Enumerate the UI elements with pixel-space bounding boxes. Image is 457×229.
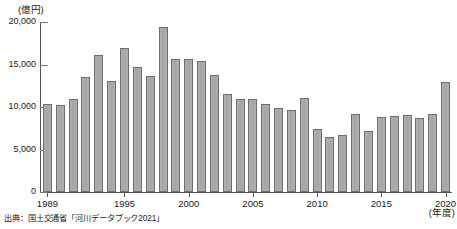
bar (364, 131, 373, 192)
bar (56, 105, 65, 192)
source-note: 出典：国土交通省「河川データブック2021」 (4, 211, 164, 223)
bar (313, 129, 322, 192)
bar (81, 77, 90, 192)
y-axis-unit-label: (億円) (18, 2, 44, 16)
y-axis-tick-label: 10,000 (8, 101, 36, 111)
bar (287, 110, 296, 192)
y-axis-tick-label: 20,000 (8, 16, 36, 26)
x-axis-tick-mark (381, 193, 382, 197)
x-axis-tick-label: 1989 (37, 198, 58, 209)
bar (69, 99, 78, 192)
bar (120, 48, 129, 192)
x-axis-tick-label: 2005 (242, 198, 263, 209)
bar (171, 59, 180, 192)
x-axis-tick-mark (446, 193, 447, 197)
plot-area: 05,00010,00015,00020,000 198919952000200… (40, 22, 452, 193)
x-axis-tick-mark (47, 193, 48, 197)
bar (107, 81, 116, 192)
bar-chart-figure: (億円) 05,00010,00015,00020,000 1989199520… (0, 0, 457, 229)
bar (133, 67, 142, 192)
x-axis-tick-label: 1995 (114, 198, 135, 209)
x-axis-tick-mark (124, 193, 125, 197)
bar (248, 99, 257, 193)
bar (274, 108, 283, 192)
bar (300, 98, 309, 192)
bar (403, 115, 412, 192)
bar (351, 114, 360, 192)
x-axis-tick-label: 2015 (371, 198, 392, 209)
bar (223, 94, 232, 192)
bar (197, 61, 206, 192)
x-axis-tick-label: 2010 (307, 198, 328, 209)
y-axis-tick-label: 15,000 (8, 59, 36, 69)
x-axis-tick-mark (189, 193, 190, 197)
y-axis-tick-label: 0 (31, 186, 36, 196)
bar (43, 104, 52, 192)
x-axis-tick-mark (253, 193, 254, 197)
bar (146, 76, 155, 192)
bar (415, 118, 424, 192)
bar (377, 117, 386, 192)
x-axis-tick-label: 2000 (178, 198, 199, 209)
bar (261, 104, 270, 192)
bars-layer (41, 22, 452, 192)
bar (390, 116, 399, 193)
y-axis-tick-label: 5,000 (13, 144, 36, 154)
bar (441, 82, 450, 192)
bar (236, 99, 245, 192)
x-axis-tick-mark (317, 193, 318, 197)
bar (325, 137, 334, 192)
x-axis-line (40, 192, 452, 193)
bar (94, 55, 103, 192)
bar (184, 59, 193, 192)
bar (159, 27, 168, 192)
bar (428, 114, 437, 192)
bar (338, 135, 347, 192)
x-axis-unit-label: (年度) (429, 205, 455, 219)
bar (210, 75, 219, 192)
